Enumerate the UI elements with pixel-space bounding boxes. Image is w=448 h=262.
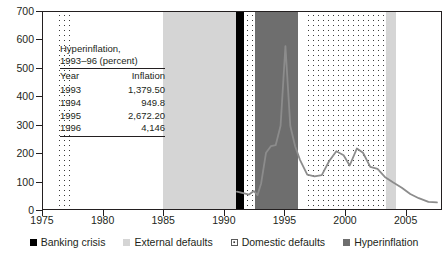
y-tick-mark bbox=[36, 125, 42, 126]
x-axis-labels: 1975198019851990199520002005 bbox=[0, 214, 448, 230]
x-tick-mark bbox=[345, 210, 346, 216]
y-tick-mark bbox=[36, 96, 42, 97]
inflation-polyline bbox=[237, 46, 437, 202]
cell-year: 1996 bbox=[60, 122, 98, 136]
y-tick-label: 600 bbox=[16, 34, 34, 44]
y-tick-mark bbox=[36, 153, 42, 154]
y-tick-mark bbox=[36, 182, 42, 183]
annotation-table: Year Inflation 19931,379.501994949.81995… bbox=[60, 68, 165, 136]
chart-legend: Banking crisisExternal defaultsDomestic … bbox=[0, 236, 448, 248]
x-tick-mark bbox=[103, 210, 104, 216]
external-swatch bbox=[123, 239, 130, 246]
legend-label: Banking crisis bbox=[41, 236, 106, 248]
cell-year: 1994 bbox=[60, 96, 98, 109]
legend-item[interactable]: Banking crisis bbox=[30, 236, 106, 248]
cell-inflation: 4,146 bbox=[98, 122, 165, 136]
legend-label: Domestic defaults bbox=[242, 236, 325, 248]
hyperinflation-swatch bbox=[343, 239, 350, 246]
legend-item[interactable]: Hyperinflation bbox=[343, 236, 418, 248]
domestic-swatch bbox=[231, 239, 238, 246]
x-tick-mark bbox=[42, 210, 43, 216]
x-tick-mark bbox=[284, 210, 285, 216]
annotation-title-line-2: 1993–96 (percent) bbox=[60, 55, 165, 67]
x-tick-mark bbox=[406, 210, 407, 216]
x-tick-mark bbox=[224, 210, 225, 216]
table-header-row: Year Inflation bbox=[60, 69, 165, 84]
y-tick-mark bbox=[36, 39, 42, 40]
column-header-inflation: Inflation bbox=[98, 69, 165, 84]
y-tick-label: 400 bbox=[16, 91, 34, 101]
y-tick-mark bbox=[36, 11, 42, 12]
annotation-title-line-1: Hyperinflation, bbox=[60, 43, 165, 55]
y-tick-label: 300 bbox=[16, 120, 34, 130]
table-row: 1994949.8 bbox=[60, 96, 165, 109]
y-tick-mark bbox=[36, 68, 42, 69]
cell-year: 1993 bbox=[60, 84, 98, 97]
y-tick-label: 100 bbox=[16, 177, 34, 187]
chart-figure: 0100200300400500600700 19751980198519901… bbox=[0, 0, 448, 262]
cell-inflation: 1,379.50 bbox=[98, 84, 165, 97]
table-row: 19931,379.50 bbox=[60, 84, 165, 97]
hyperinflation-annotation-table: Hyperinflation, 1993–96 (percent) Year I… bbox=[60, 43, 165, 137]
cell-inflation: 949.8 bbox=[98, 96, 165, 109]
y-tick-label: 200 bbox=[16, 148, 34, 158]
table-row: 19952,672.20 bbox=[60, 109, 165, 122]
legend-label: External defaults bbox=[134, 236, 212, 248]
cell-year: 1995 bbox=[60, 109, 98, 122]
legend-item[interactable]: Domestic defaults bbox=[231, 236, 325, 248]
banking-swatch bbox=[30, 239, 37, 246]
legend-item[interactable]: External defaults bbox=[123, 236, 212, 248]
table-row: 19964,146 bbox=[60, 122, 165, 136]
column-header-year: Year bbox=[60, 69, 98, 84]
cell-inflation: 2,672.20 bbox=[98, 109, 165, 122]
x-tick-mark bbox=[163, 210, 164, 216]
legend-label: Hyperinflation bbox=[354, 236, 418, 248]
y-tick-label: 500 bbox=[16, 63, 34, 73]
y-tick-label: 700 bbox=[16, 6, 34, 16]
